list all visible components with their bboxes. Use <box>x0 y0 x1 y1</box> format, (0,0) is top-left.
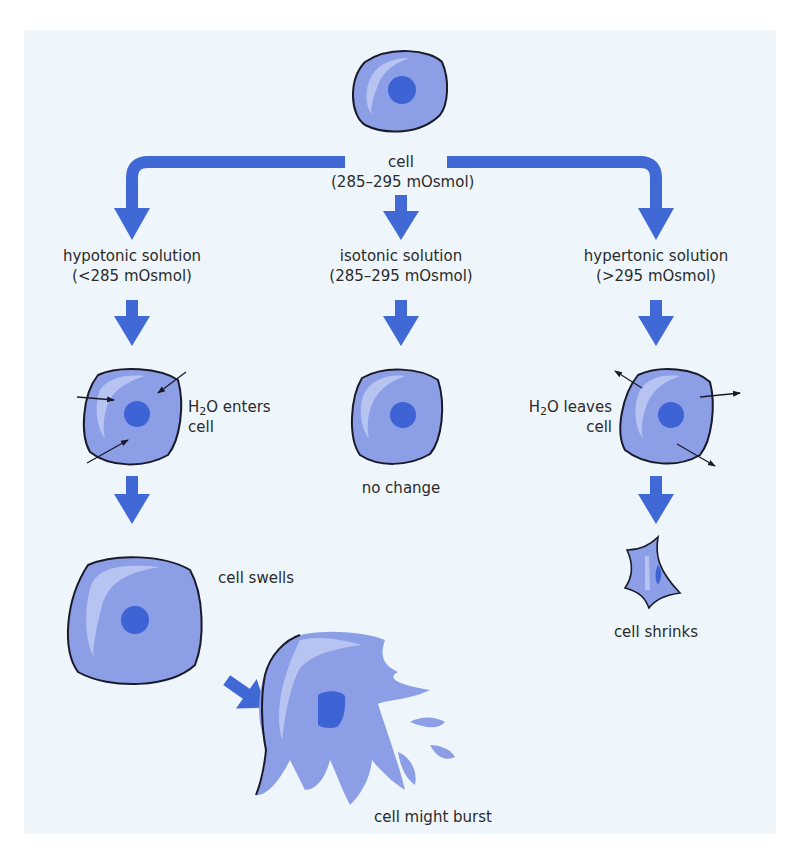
cell-initial <box>353 51 447 132</box>
label-line: hypertonic solution <box>566 246 746 266</box>
nucleus-icon <box>124 401 150 427</box>
water-rest: O leaves <box>547 398 612 416</box>
droplet-icon <box>430 745 455 759</box>
label-line: (285–295 mOsmol) <box>311 266 491 286</box>
no-change-label: no change <box>341 478 461 498</box>
isotonic-label: isotonic solution (285–295 mOsmol) <box>311 246 491 286</box>
label-line: (<285 mOsmol) <box>42 266 222 286</box>
branch-left-line <box>132 162 345 210</box>
osmosis-diagram <box>0 0 794 856</box>
cell-shrunken <box>625 537 680 608</box>
water-subscript: 2 <box>540 405 547 418</box>
hypotonic-label: hypotonic solution (<285 mOsmol) <box>42 246 222 286</box>
arrow-down-icon <box>638 316 674 346</box>
label-line: (>295 mOsmol) <box>566 266 746 286</box>
water-enters-label: H2O enters cell <box>188 397 271 437</box>
cell-swollen <box>68 557 202 684</box>
label-line: hypotonic solution <box>42 246 222 266</box>
initial-cell-label: cell (285–295 mOsmol) <box>331 152 471 192</box>
nucleus-icon <box>657 567 661 583</box>
label-line: cell <box>520 417 612 437</box>
arrow-down-icon <box>114 208 150 240</box>
cell-swells-label: cell swells <box>218 568 294 588</box>
arrow-down-icon <box>114 316 150 346</box>
arrow-down-icon <box>638 208 674 240</box>
arrow-down-icon <box>383 211 419 240</box>
water-h: H <box>188 398 199 416</box>
label-line: cell <box>188 417 271 437</box>
label-line: H2O leaves <box>520 397 612 417</box>
cell-isotonic <box>352 370 442 464</box>
hypertonic-label: hypertonic solution (>295 mOsmol) <box>566 246 746 286</box>
water-h: H <box>529 398 540 416</box>
arrow-down-icon <box>114 494 150 524</box>
label-line: cell <box>331 152 471 172</box>
label-line: H2O enters <box>188 397 271 417</box>
cell-shrinks-label: cell shrinks <box>596 622 716 642</box>
label-line: isotonic solution <box>311 246 491 266</box>
cell-hypertonic <box>615 369 740 466</box>
water-leaves-label: H2O leaves cell <box>520 397 612 437</box>
arrow-down-icon <box>638 494 674 524</box>
label-line: (285–295 mOsmol) <box>331 172 471 192</box>
arrow-down-icon <box>383 316 419 346</box>
branch-right-line <box>447 162 656 210</box>
nucleus-icon <box>390 402 416 428</box>
nucleus-icon <box>121 606 149 634</box>
droplet-icon <box>410 718 445 728</box>
cell-bursting <box>256 632 455 805</box>
cell-burst-label: cell might burst <box>374 807 492 827</box>
nucleus-icon <box>388 76 416 104</box>
nucleus-icon <box>658 402 684 428</box>
water-rest: O enters <box>206 398 270 416</box>
cell-hypotonic <box>77 369 186 464</box>
